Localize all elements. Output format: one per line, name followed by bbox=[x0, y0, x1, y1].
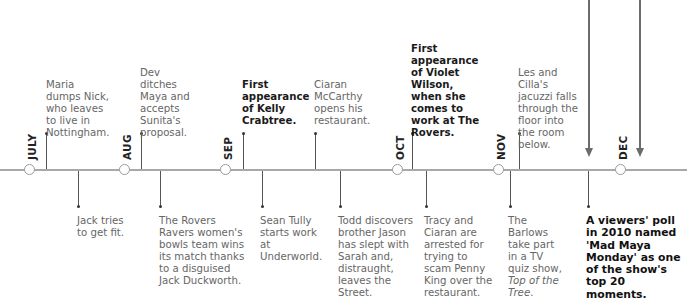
tick-down bbox=[78, 171, 79, 207]
tick-up bbox=[315, 133, 316, 169]
event-dev-sunita: Dev ditches Maya and accepts Sunita's pr… bbox=[140, 67, 194, 139]
month-label-oct: OCT bbox=[394, 135, 406, 160]
tick-down bbox=[426, 171, 427, 207]
tick-dot bbox=[425, 205, 428, 208]
event-barlows-text: The Barlows take part in a TV quiz show, bbox=[508, 215, 562, 274]
event-rovers-ravers: The Rovers Ravers women's bowls team win… bbox=[159, 215, 251, 287]
event-sean-tully: Sean Tully starts work at Underworld. bbox=[260, 215, 322, 263]
tick-up bbox=[243, 133, 244, 169]
event-todd-jason: Todd discovers brother Jason has slept w… bbox=[338, 215, 416, 299]
tick-dot bbox=[159, 205, 162, 208]
event-barlows-suffix: . bbox=[530, 287, 533, 298]
event-maria-nick: Maria dumps Nick, who leaves to live in … bbox=[46, 79, 110, 139]
month-node-sep bbox=[220, 164, 231, 175]
month-node-aug bbox=[119, 164, 130, 175]
month-node-oct bbox=[392, 164, 403, 175]
month-node-dec bbox=[615, 164, 626, 175]
tick-down bbox=[340, 171, 341, 207]
month-node-july bbox=[24, 164, 35, 175]
event-barlows-quiz: The Barlows take part in a TV quiz show,… bbox=[508, 215, 564, 299]
tick-dot bbox=[314, 132, 317, 135]
month-label-dec: DEC bbox=[617, 136, 629, 161]
month-label-sep: SEP bbox=[222, 137, 234, 160]
event-violet-wilson: First appearance of Violet Wilson, when … bbox=[411, 43, 487, 139]
event-kelly-crabtree: First appearance of Kelly Crabtree. bbox=[242, 79, 300, 127]
event-jacuzzi: Les and Cilla's jacuzzi falls through th… bbox=[518, 67, 578, 151]
month-node-nov bbox=[493, 164, 504, 175]
tick-dot bbox=[509, 205, 512, 208]
arrow-line-2 bbox=[639, 0, 641, 150]
timeline-axis bbox=[0, 169, 687, 171]
arrow-down-icon bbox=[636, 148, 644, 157]
event-mad-maya-monday: A viewers' poll in 2010 named 'Mad Maya … bbox=[586, 215, 687, 301]
month-label-july: JULY bbox=[26, 134, 38, 160]
month-label-nov: NOV bbox=[495, 134, 507, 160]
event-ciaran-restaurant: Ciaran McCarthy opens his restaurant. bbox=[314, 79, 364, 127]
tick-dot bbox=[339, 205, 342, 208]
arrow-line-1 bbox=[588, 0, 590, 150]
event-tracy-ciaran: Tracy and Ciaran are arrested for trying… bbox=[424, 215, 496, 299]
tick-down bbox=[160, 171, 161, 207]
tick-dot bbox=[242, 132, 245, 135]
event-jack-fit: Jack tries to get fit. bbox=[77, 215, 133, 239]
tick-dot bbox=[587, 205, 590, 208]
tick-down bbox=[588, 171, 589, 207]
month-label-aug: AUG bbox=[121, 134, 133, 160]
tick-dot bbox=[77, 205, 80, 208]
tick-down bbox=[510, 171, 511, 207]
tick-dot bbox=[261, 205, 264, 208]
tick-down bbox=[262, 171, 263, 207]
arrow-down-icon bbox=[585, 148, 593, 157]
